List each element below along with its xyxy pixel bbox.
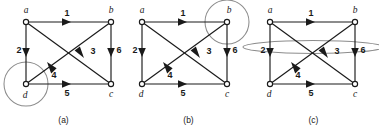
edge-label-5: 5 [64, 88, 69, 98]
vertex-label-d: d [23, 90, 28, 100]
vertex-node-b[interactable] [108, 19, 113, 24]
edge-label-6: 6 [360, 45, 365, 55]
edge-label-1: 1 [64, 8, 69, 18]
vertex-label-a: a [268, 5, 273, 15]
edge-label-2: 2 [260, 45, 265, 55]
vertex-node-b[interactable] [352, 19, 357, 24]
edge-3-arrowhead [191, 47, 200, 58]
vertex-node-c[interactable] [224, 81, 229, 86]
edge-label-6: 6 [116, 45, 121, 55]
vertex-label-c: c [225, 89, 230, 99]
vertex-label-b: b [353, 5, 358, 15]
edge-label-3: 3 [334, 46, 339, 56]
edge-label-2: 2 [16, 45, 21, 55]
vertex-node-b[interactable] [224, 19, 229, 24]
edge-1-arrowhead [306, 18, 315, 26]
edge-6-arrowhead [223, 48, 231, 57]
vertex-label-a: a [140, 5, 145, 15]
edge-label-1: 1 [308, 8, 313, 18]
vertex-label-c: c [109, 89, 114, 99]
edge-label-5: 5 [180, 88, 185, 98]
figure-container: a b d c 1 2 3 4 5 6 (a) [0, 0, 379, 127]
edge-3-arrowhead [319, 47, 328, 58]
vertex-label-b: b [227, 5, 232, 15]
edge-1-arrowhead [178, 18, 187, 26]
vertex-label-d: d [267, 89, 272, 99]
edge-label-4: 4 [295, 70, 300, 80]
edge-label-6: 6 [232, 45, 237, 55]
panel-a-graph: a b d c 1 2 3 4 5 6 [0, 0, 127, 127]
edge-5-arrowhead [178, 80, 187, 88]
panel-b-caption: (b) [125, 115, 252, 125]
edge-1-arrowhead [62, 18, 71, 26]
vertex-node-c[interactable] [108, 81, 113, 86]
edge-label-4: 4 [51, 70, 56, 80]
edge-label-3: 3 [90, 46, 95, 56]
panel-c-graph: a b d c 1 2 3 4 5 6 [250, 0, 377, 127]
edge-6-arrowhead [107, 48, 115, 57]
vertex-node-c[interactable] [352, 81, 357, 86]
edge-5-arrowhead [306, 80, 315, 88]
vertex-node-d[interactable] [267, 81, 272, 86]
edge-label-2: 2 [132, 45, 137, 55]
vertex-label-a: a [24, 5, 29, 15]
edge-label-3: 3 [206, 46, 211, 56]
panel-b-graph: a b d c 1 2 3 4 5 6 [125, 0, 252, 127]
edge-label-1: 1 [180, 8, 185, 18]
edge-label-5: 5 [308, 88, 313, 98]
edge-2-arrowhead [22, 48, 30, 57]
vertex-label-b: b [109, 5, 114, 15]
panel-a-caption: (a) [0, 115, 127, 125]
edge-label-4: 4 [167, 70, 172, 80]
vertex-node-a[interactable] [267, 19, 272, 24]
panel-c: a b d c 1 2 3 4 5 6 (c) [250, 0, 377, 127]
edge-3-arrowhead [75, 47, 84, 58]
vertex-node-a[interactable] [23, 19, 28, 24]
vertex-label-d: d [139, 89, 144, 99]
panel-a: a b d c 1 2 3 4 5 6 (a) [0, 0, 127, 127]
vertex-label-c: c [353, 89, 358, 99]
edge-2-arrowhead [138, 48, 146, 57]
vertex-node-d[interactable] [23, 81, 28, 86]
panel-b: a b d c 1 2 3 4 5 6 (b) [125, 0, 252, 127]
edge-5-arrowhead [62, 80, 71, 88]
vertex-node-a[interactable] [139, 19, 144, 24]
vertex-node-d[interactable] [139, 81, 144, 86]
panel-c-caption: (c) [250, 115, 377, 125]
